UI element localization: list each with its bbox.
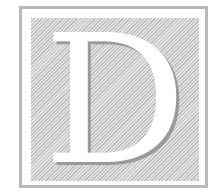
drop-cap-letter: D <box>31 18 199 181</box>
hatched-background: D D <box>31 18 199 181</box>
drop-cap-frame: D D <box>19 6 208 188</box>
